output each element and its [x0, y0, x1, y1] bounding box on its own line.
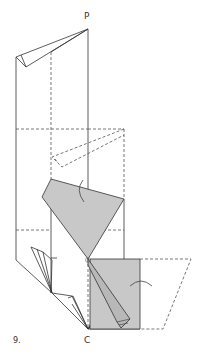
point-label-c: C	[84, 336, 90, 345]
step-number: 9.	[13, 337, 21, 345]
point-label-p: P	[84, 12, 89, 21]
top-flap	[16, 29, 88, 67]
left-fan	[31, 247, 88, 329]
shaded-pentagon	[42, 179, 124, 259]
origami-diagram	[0, 0, 201, 359]
